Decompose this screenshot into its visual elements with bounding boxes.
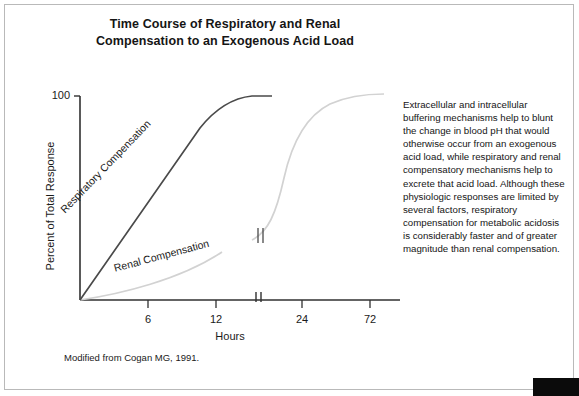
respiratory-compensation-curve	[80, 96, 272, 300]
x-axis-tick-label-12: 12	[201, 313, 231, 325]
x-axis-tick-label-72: 72	[355, 313, 385, 325]
description-paragraph: Extracellular and intracellular bufferin…	[403, 98, 565, 255]
x-axis-tick-label-24: 24	[287, 313, 317, 325]
source-note: Modified from Cogan MG, 1991.	[64, 352, 199, 363]
corner-black-block	[533, 378, 579, 396]
y-axis-title: Percent of Total Response	[44, 106, 56, 306]
chart-figure: 100 Percent of Total Response 6 12 24 72…	[0, 0, 410, 396]
x-axis-title: Hours	[200, 330, 260, 342]
renal-compensation-curve-segment-2	[252, 94, 384, 240]
y-axis-tick-label-100: 100	[44, 89, 70, 101]
figure-page: Time Course of Respiratory and Renal Com…	[0, 0, 579, 396]
x-axis-tick-label-6: 6	[133, 313, 163, 325]
